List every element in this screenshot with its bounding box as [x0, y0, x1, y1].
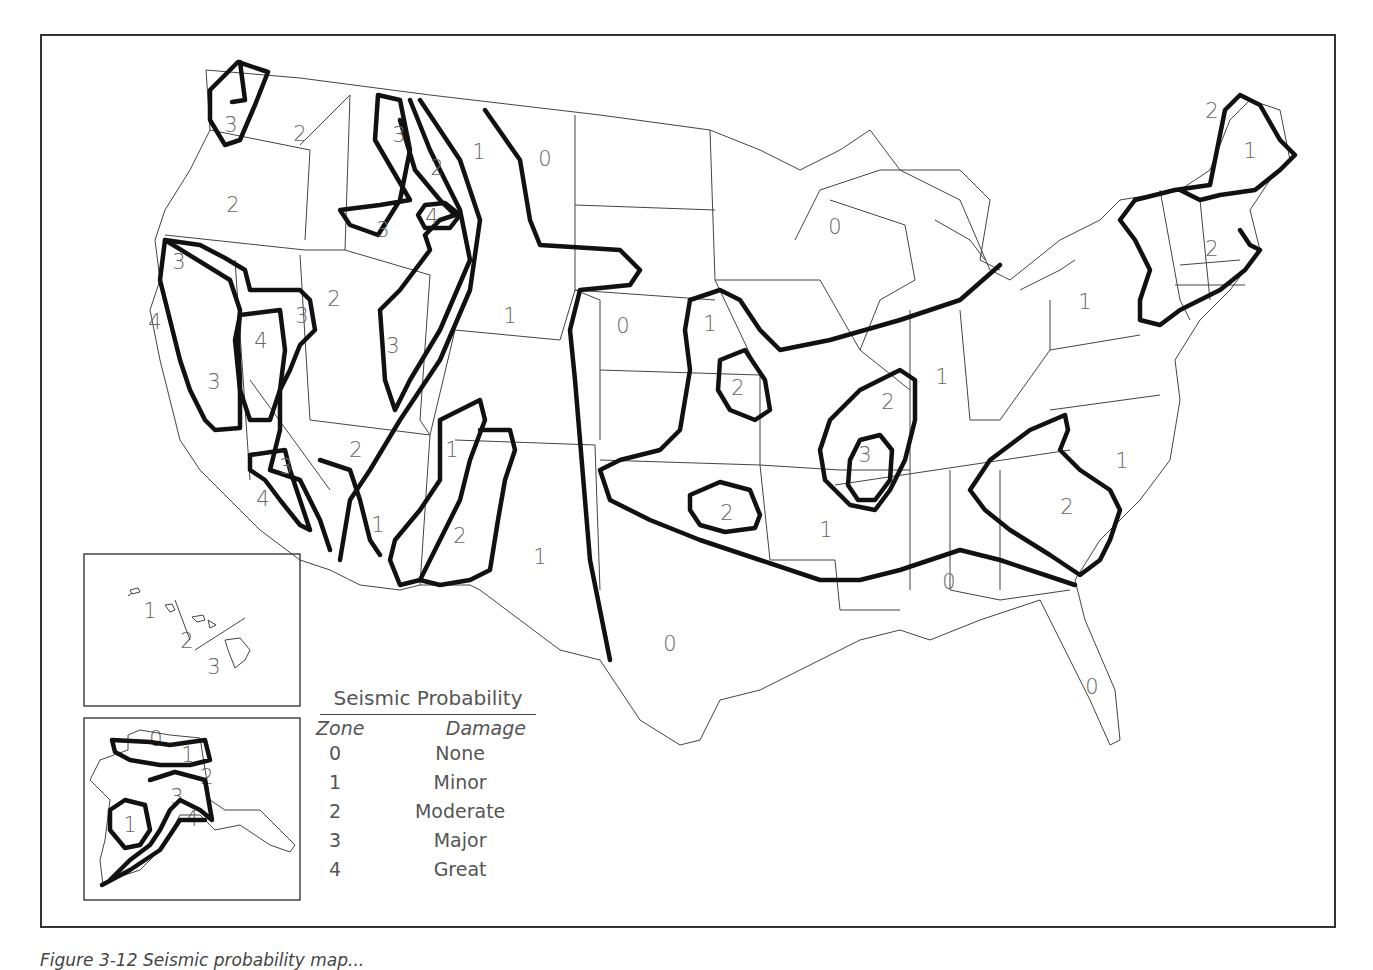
legend-zone: 2 — [316, 797, 354, 826]
zone-label: 1 — [503, 304, 516, 328]
legend-zone: 0 — [316, 739, 354, 768]
zone-label: 2 — [1205, 99, 1218, 123]
zone-label: 3 — [207, 655, 220, 679]
zone-label: 1 — [123, 813, 136, 837]
zone-label: 2 — [430, 156, 443, 180]
figure-caption: Figure 3-12 Seismic probability map... — [40, 950, 364, 970]
legend-damage: Moderate — [354, 797, 546, 826]
zone-label: 0 — [663, 632, 676, 656]
legend: Seismic Probability Zone Damage 0 None 1… — [316, 686, 546, 884]
zone-label: 3 — [172, 250, 185, 274]
zone-label: 4 — [256, 487, 269, 511]
zone-label: 1 — [371, 513, 384, 537]
legend-damage: Minor — [354, 768, 546, 797]
zone-label: 3 — [224, 113, 237, 137]
legend-damage: Great — [354, 855, 546, 884]
zone-label: 1 — [472, 140, 485, 164]
legend-row: 0 None — [316, 739, 546, 768]
zone-label: 2 — [1060, 495, 1073, 519]
zone-label: 1 — [1243, 139, 1256, 163]
zone-label: 2 — [720, 501, 733, 525]
legend-row: 2 Moderate — [316, 797, 546, 826]
legend-zone: 3 — [316, 826, 354, 855]
legend-damage: Major — [354, 826, 546, 855]
zone-label: 1 — [533, 545, 546, 569]
zone-label: 3 — [279, 455, 292, 479]
zone-label: 3 — [386, 334, 399, 358]
zone-label: 1 — [819, 518, 832, 542]
zone-label: 3 — [207, 370, 220, 394]
zone-label: 2 — [1205, 237, 1218, 261]
zone-label: 1 — [1078, 290, 1091, 314]
zone-label: 1 — [1115, 449, 1128, 473]
zone-label: 3 — [295, 304, 308, 328]
zone-label: 2 — [293, 122, 306, 146]
zone-label: 2 — [327, 287, 340, 311]
zone-label: 2 — [453, 524, 466, 548]
zone-label: 2 — [881, 390, 894, 414]
zone-label: 4 — [148, 310, 161, 334]
zone-label: 0 — [616, 314, 629, 338]
state-borders — [150, 70, 1290, 745]
legend-zone: 1 — [316, 768, 354, 797]
zone-labels: 3223210343423433101201123213412121000122… — [148, 99, 1256, 699]
legend-header-zone: Zone — [316, 717, 376, 739]
legend-row: 1 Minor — [316, 768, 546, 797]
zone-label: 2 — [349, 438, 362, 462]
zone-label: 3 — [858, 443, 871, 467]
zone-label: 2 — [731, 376, 744, 400]
zone-label: 1 — [143, 599, 156, 623]
zone-label: 0 — [538, 147, 551, 171]
zone-label: 1 — [703, 312, 716, 336]
zone-label: 1 — [445, 438, 458, 462]
legend-title: Seismic Probability — [320, 686, 536, 715]
legend-zone: 4 — [316, 855, 354, 884]
legend-row: 3 Major — [316, 826, 546, 855]
legend-row: 4 Great — [316, 855, 546, 884]
legend-header-damage: Damage — [376, 717, 540, 739]
zone-label: 0 — [828, 215, 841, 239]
zone-label: 3 — [376, 218, 389, 242]
zone-label: 0 — [942, 570, 955, 594]
legend-header: Zone Damage — [316, 717, 546, 739]
zone-label: 0 — [1085, 675, 1098, 699]
legend-damage: None — [354, 739, 546, 768]
zone-label: 1 — [935, 365, 948, 389]
zone-label: 0 — [149, 727, 162, 751]
zone-label: 4 — [425, 205, 438, 229]
zone-label: 2 — [226, 193, 239, 217]
zone-label: 3 — [392, 123, 405, 147]
zone-label: 4 — [254, 329, 267, 353]
